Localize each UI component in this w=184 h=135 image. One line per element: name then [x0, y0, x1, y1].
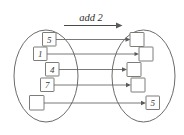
function-mapping-diagram: 5 1 4 7: [0, 0, 184, 135]
output-item-5-label: 5: [150, 98, 155, 108]
output-item-2: [139, 47, 153, 61]
input-item-4-label: 7: [45, 80, 50, 90]
input-item-2: 1: [34, 47, 48, 61]
mapping-arrow-2: [47, 52, 139, 56]
input-item-1: 5: [43, 33, 57, 47]
input-item-3-label: 4: [50, 65, 55, 75]
input-item-5: [30, 96, 45, 111]
input-item-1-label: 5: [47, 35, 52, 45]
output-item-4: [131, 78, 145, 92]
input-item-3: 4: [46, 63, 60, 77]
diagram-canvas: 5 1 4 7: [0, 0, 184, 135]
operation-arrow-head: [116, 23, 123, 29]
input-item-2-label: 1: [38, 49, 43, 59]
operation-label: add 2: [79, 12, 103, 23]
mapping-arrow-3: [59, 67, 127, 72]
input-item-4: 7: [41, 78, 55, 92]
output-item-5: 5: [146, 96, 160, 110]
operation-arrow: [64, 23, 123, 29]
output-item-1: [130, 33, 144, 47]
mapping-arrow-4: [54, 83, 131, 88]
mapping-arrow-5: [44, 101, 146, 106]
output-item-3: [127, 63, 141, 77]
